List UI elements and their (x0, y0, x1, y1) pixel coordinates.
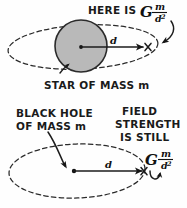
star-callout-prefix: HERE IS (88, 4, 136, 16)
black-hole-formula-constant: G (145, 151, 158, 169)
star-formula-exponent: 2 (160, 13, 166, 21)
star-panel (7, 20, 174, 73)
star-formula-numerator: m (155, 1, 165, 12)
black-hole-formula: G m d 2 (145, 148, 173, 171)
black-hole-formula-exponent: 2 (166, 160, 172, 168)
star-distance-label: d (110, 35, 117, 46)
black-hole-caption-line-1: BLACK HOLE (16, 107, 93, 119)
field-note-line-2: STRENGTH (115, 118, 181, 130)
black-hole-formula-numerator: m (161, 148, 171, 159)
black-hole-caption-line-2: OF MASS m (16, 120, 86, 132)
star-formula-constant: G (140, 3, 153, 21)
field-note-line-1: FIELD (122, 105, 157, 117)
black-hole-distance-label: d (105, 159, 112, 170)
field-note-line-3: IS STILL (120, 131, 170, 143)
figure-canvas: HERE IS G m d 2 d STAR OF MASS m (0, 0, 187, 208)
black-hole-caption-arrow (48, 132, 65, 166)
star-formula: G m d 2 (140, 1, 167, 24)
star-caption: STAR OF MASS m (44, 79, 150, 91)
diagram-svg: HERE IS G m d 2 d STAR OF MASS m (0, 0, 187, 208)
star-callout-arrowhead (162, 37, 170, 44)
star-field-point-marker (145, 43, 151, 50)
